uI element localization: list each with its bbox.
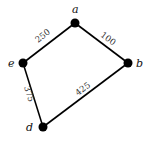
edge-weight-a-b: 100 xyxy=(99,30,118,48)
node-label-d: d xyxy=(26,121,33,134)
edge-e-a xyxy=(23,23,75,63)
node-label-a: a xyxy=(72,3,79,16)
node-e xyxy=(19,59,28,68)
edge-weight-e-d: 375 xyxy=(22,85,37,104)
node-b xyxy=(124,59,133,68)
node-a xyxy=(71,19,80,28)
edge-weight-d-b: 425 xyxy=(73,80,92,98)
node-label-b: b xyxy=(136,57,143,70)
node-d xyxy=(39,123,48,132)
node-label-e: e xyxy=(8,57,15,70)
weighted-graph-diagram: a b d e 250 100 375 425 xyxy=(0,0,151,142)
edge-a-b xyxy=(75,23,128,63)
edge-d-b xyxy=(43,63,128,127)
